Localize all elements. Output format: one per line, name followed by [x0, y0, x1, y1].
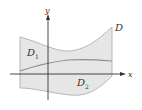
subregion-2-label: D — [76, 77, 85, 88]
subregion-1-label: D — [26, 47, 35, 58]
region-d — [20, 27, 112, 95]
region-diagram: y x D D 1 D 2 — [0, 0, 142, 110]
region-label: D — [114, 22, 123, 33]
x-axis-arrow-icon — [120, 72, 126, 76]
y-axis-label: y — [44, 6, 50, 15]
x-axis-label: x — [128, 70, 133, 79]
subregion-2-subscript: 2 — [85, 83, 89, 90]
subregion-1-subscript: 1 — [35, 53, 39, 60]
